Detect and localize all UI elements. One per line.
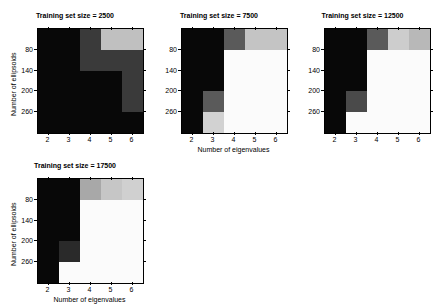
panel-training-set-12500: Training set size = 12500 23456 80140200…: [287, 6, 438, 156]
y-tick-label: 200: [296, 86, 320, 95]
y-tick-mark: [34, 240, 37, 241]
y-tick-mark-right: [143, 261, 146, 262]
x-tick-label: 4: [367, 135, 387, 144]
heatmap-cell: [367, 29, 388, 50]
heatmap-cell: [59, 112, 80, 133]
heatmap-cell: [325, 91, 346, 112]
heatmap-cell: [59, 29, 80, 50]
heatmap-plot-area[interactable]: [324, 28, 431, 134]
heatmap-grid: [38, 179, 143, 283]
x-tick-label: 2: [38, 135, 58, 144]
panel-title: Training set size = 2500: [0, 11, 150, 20]
x-tick-label: 3: [346, 135, 366, 144]
y-tick-label: 260: [153, 107, 177, 116]
y-tick-mark: [178, 49, 181, 50]
x-tick-label: 6: [409, 135, 429, 144]
panel-title: Training set size = 17500: [0, 161, 150, 170]
heatmap-cell: [38, 29, 59, 50]
x-tick-mark-top: [69, 177, 70, 180]
x-tick-mark-top: [377, 27, 378, 30]
x-tick-mark-top: [111, 177, 112, 180]
heatmap-cell: [409, 71, 430, 92]
x-tick-mark-top: [132, 177, 133, 180]
heatmap-cell: [224, 29, 245, 50]
heatmap-cell: [38, 221, 59, 242]
panel-title: Training set size = 12500: [287, 11, 438, 20]
panel-training-set-2500: Training set size = 2500 23456 801402002…: [0, 6, 150, 156]
heatmap-cell: [38, 179, 59, 200]
y-axis-label: Number of ellipsoids: [9, 53, 18, 116]
x-tick-label: 2: [38, 285, 58, 294]
heatmap-cell: [38, 262, 59, 283]
heatmap-cell: [182, 112, 203, 133]
heatmap-cell: [80, 179, 101, 200]
heatmap-cell: [59, 221, 80, 242]
x-tick-label: 4: [80, 285, 100, 294]
heatmap-cell: [101, 91, 122, 112]
panel-title: Training set size = 7500: [144, 11, 294, 20]
heatmap-cell: [59, 241, 80, 262]
y-tick-mark: [321, 90, 324, 91]
heatmap-cell: [182, 50, 203, 71]
y-tick-mark: [34, 261, 37, 262]
x-tick-label: 4: [80, 135, 100, 144]
x-tick-label: 2: [182, 135, 202, 144]
heatmap-cell: [38, 91, 59, 112]
y-tick-mark: [34, 220, 37, 221]
x-tick-label: 3: [59, 135, 79, 144]
heatmap-cell: [266, 91, 287, 112]
heatmap-cell: [80, 50, 101, 71]
heatmap-cell: [409, 91, 430, 112]
heatmap-grid: [182, 29, 287, 133]
heatmap-plot-area[interactable]: [181, 28, 288, 134]
heatmap-cell: [367, 112, 388, 133]
x-tick-label: 2: [325, 135, 345, 144]
heatmap-cell: [38, 50, 59, 71]
y-tick-mark-right: [143, 240, 146, 241]
y-tick-mark-right: [430, 49, 433, 50]
heatmap-cell: [122, 241, 143, 262]
heatmap-cell: [245, 50, 266, 71]
heatmap-cell: [80, 29, 101, 50]
heatmap-cell: [346, 71, 367, 92]
heatmap-cell: [59, 50, 80, 71]
heatmap-cell: [203, 91, 224, 112]
heatmap-cell: [388, 50, 409, 71]
x-axis-label: Number of eigenvalues: [37, 295, 142, 304]
heatmap-cell: [367, 91, 388, 112]
y-tick-mark: [321, 49, 324, 50]
heatmap-cell: [101, 50, 122, 71]
x-tick-label: 3: [203, 135, 223, 144]
heatmap-cell: [266, 29, 287, 50]
heatmap-cell: [245, 91, 266, 112]
x-tick-label: 5: [101, 135, 121, 144]
y-tick-mark-right: [430, 70, 433, 71]
y-tick-mark: [178, 111, 181, 112]
y-tick-label: 140: [153, 66, 177, 75]
y-tick-label: 80: [153, 45, 177, 54]
heatmap-cell: [80, 241, 101, 262]
heatmap-cell: [80, 221, 101, 242]
heatmap-cell: [245, 71, 266, 92]
heatmap-cell: [59, 200, 80, 221]
heatmap-cell: [122, 71, 143, 92]
heatmap-cell: [59, 71, 80, 92]
y-tick-label: 140: [296, 66, 320, 75]
heatmap-cell: [245, 112, 266, 133]
heatmap-cell: [122, 112, 143, 133]
heatmap-cell: [266, 71, 287, 92]
x-tick-mark-top: [335, 27, 336, 30]
heatmap-cell: [182, 71, 203, 92]
x-tick-label: 6: [266, 135, 286, 144]
heatmap-cell: [388, 91, 409, 112]
heatmap-cell: [59, 179, 80, 200]
heatmap-plot-area[interactable]: [37, 28, 144, 134]
heatmap-cell: [203, 29, 224, 50]
y-tick-mark-right: [430, 111, 433, 112]
y-tick-mark: [321, 111, 324, 112]
x-tick-mark-top: [234, 27, 235, 30]
x-tick-mark-top: [398, 27, 399, 30]
heatmap-cell: [182, 29, 203, 50]
heatmap-cell: [224, 91, 245, 112]
heatmap-plot-area[interactable]: [37, 178, 144, 284]
